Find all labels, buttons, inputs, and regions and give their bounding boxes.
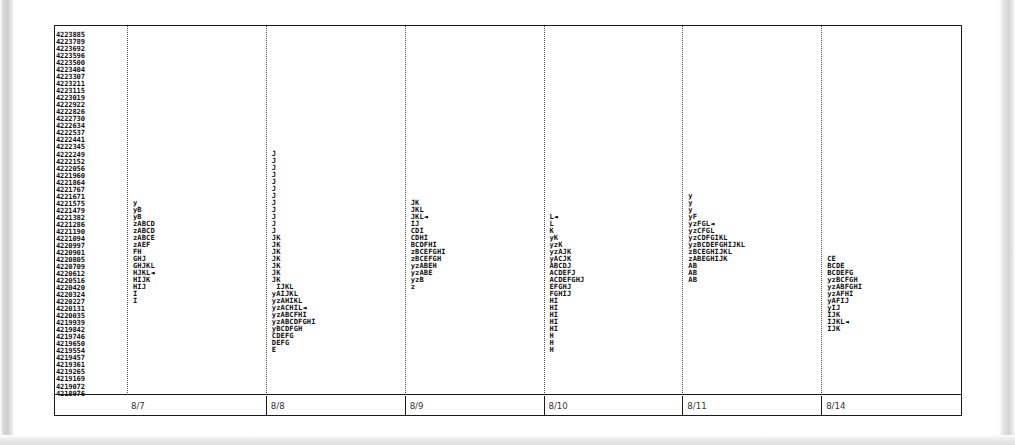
x-axis-label: 8/8 — [267, 401, 285, 411]
x-axis-cell-8-10: 8/10 — [544, 396, 683, 415]
gridline-8-14 — [821, 26, 822, 413]
x-axis-label: 8/14 — [822, 401, 845, 411]
x-axis-cell-8-7: 8/7 — [127, 396, 266, 415]
x-axis-cell-8-8: 8/8 — [266, 396, 405, 415]
x-axis-label: 8/10 — [545, 401, 568, 411]
data-point-codes: H — [550, 346, 554, 353]
scan-artifact-right-strip — [999, 0, 1015, 445]
gridline-8-8 — [266, 26, 267, 413]
x-axis-cell-8-9: 8/9 — [405, 396, 544, 415]
data-point-codes: I — [133, 297, 137, 304]
scan-artifact-left-strip — [0, 0, 14, 445]
data-point-codes: AB — [688, 276, 697, 283]
chart-frame: 4223885422378942236924223596422350042234… — [54, 25, 962, 414]
gridline-8-7 — [127, 26, 128, 413]
x-axis-cell-8-11: 8/11 — [682, 396, 821, 415]
x-axis-label: 8/9 — [406, 401, 424, 411]
plot-area: 4223885422378942236924223596422350042234… — [55, 26, 961, 413]
x-axis-top-rule — [54, 394, 962, 395]
data-point-codes: z — [411, 283, 415, 290]
data-point-codes: E — [272, 346, 276, 353]
x-axis-label: 8/7 — [127, 401, 145, 411]
x-axis-category-strip: 8/78/88/98/108/118/14 — [54, 396, 962, 416]
y-axis-tick-labels: 4223885422378942236924223596422350042234… — [56, 27, 128, 413]
x-axis-cell-8-14: 8/14 — [821, 396, 960, 415]
gridline-8-11 — [682, 26, 683, 413]
gridline-8-9 — [405, 26, 406, 413]
x-axis-label: 8/11 — [683, 401, 706, 411]
scan-artifact-bottom-strip — [0, 435, 1015, 445]
data-point-codes: IJK — [827, 325, 840, 332]
gridline-8-10 — [544, 26, 545, 413]
